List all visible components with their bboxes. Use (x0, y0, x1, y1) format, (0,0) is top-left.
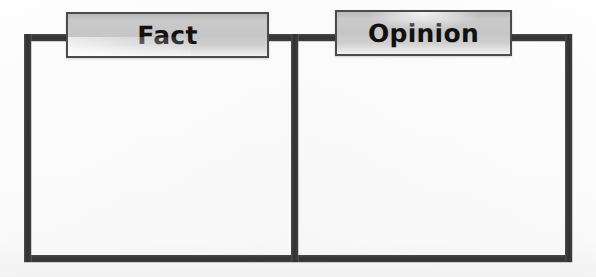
fact-column-write-area[interactable] (31, 41, 291, 255)
fact-heading-label: Fact (137, 23, 197, 48)
frame-bottom-rule (24, 255, 572, 262)
fact-opinion-organizer: Fact Opinion (0, 0, 596, 277)
column-divider-rule (291, 34, 298, 262)
opinion-heading-plate: Opinion (335, 10, 512, 56)
frame-left-rule (24, 34, 31, 262)
opinion-heading-label: Opinion (368, 21, 479, 46)
frame-right-rule (565, 34, 572, 262)
opinion-column-write-area[interactable] (298, 41, 565, 255)
fact-heading-plate: Fact (66, 12, 269, 58)
